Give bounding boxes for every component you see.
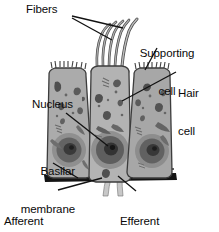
label-basilar-line1: Basilar (3, 165, 75, 178)
label-fibers: Fibers (26, 3, 57, 16)
label-nucleus: Nucleus (32, 98, 73, 111)
label-hair-cell-line2: cell (178, 125, 199, 138)
label-afferent-nerve-ending: Afferent nerve ending (4, 190, 69, 232)
label-efferent-line1: Efferent (120, 215, 185, 228)
hair-cell (89, 66, 131, 182)
label-hair-cell: Hair cell (178, 62, 199, 150)
label-supporting-cell-line1: Supporting (132, 47, 202, 60)
label-hair-cell-line1: Hair (178, 87, 199, 100)
label-efferent-nerve-ending: Efferent nerve ending (120, 190, 185, 232)
label-afferent-line1: Afferent (4, 215, 69, 228)
